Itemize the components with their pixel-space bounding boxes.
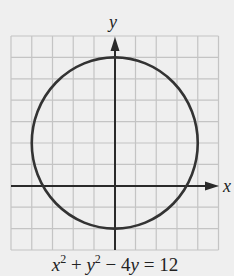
- eq-var-y: y: [131, 254, 139, 275]
- y-axis-arrow-icon: [111, 37, 120, 51]
- eq-var-x: x: [52, 254, 60, 275]
- eq-minus: − 4: [101, 254, 131, 275]
- eq-var-y: y: [86, 254, 94, 275]
- eq-plus: +: [66, 254, 86, 275]
- eq-rhs: = 12: [139, 254, 178, 275]
- x-axis-arrow-icon: [205, 182, 219, 191]
- y-axis-label: y: [107, 12, 117, 32]
- equation-caption: x2 + y2 − 4y = 12: [0, 254, 230, 276]
- x-axis-label: x: [222, 176, 231, 196]
